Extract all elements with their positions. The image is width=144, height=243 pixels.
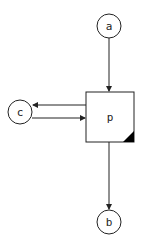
node-c[interactable]: c [8, 100, 32, 124]
node-a[interactable]: a [97, 14, 121, 38]
node-p-label: p [107, 111, 114, 124]
node-c-label: c [17, 106, 24, 119]
node-p[interactable]: p [86, 92, 134, 142]
node-a-label: a [106, 20, 113, 33]
node-b[interactable]: b [97, 210, 121, 234]
node-b-label: b [106, 216, 113, 229]
diagram-canvas: a c p b [0, 0, 144, 243]
